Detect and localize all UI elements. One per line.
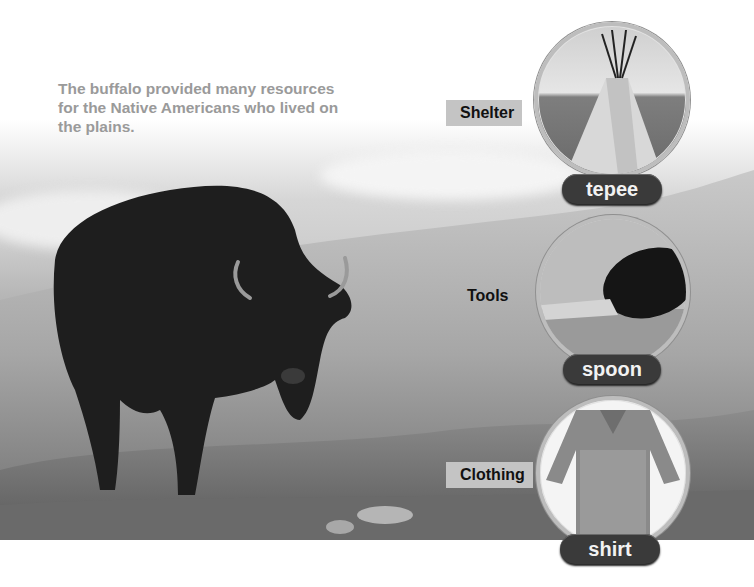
shirt-image [536,396,690,550]
tepee-icon [538,26,686,174]
spoon-label: spoon [563,354,661,384]
tepee-image [534,22,690,178]
spoon-image [536,215,690,369]
caption-text: The buffalo provided many resources for … [58,79,348,136]
shirt-label: shirt [560,534,660,564]
spoon-icon [540,219,686,365]
label-clothing: Clothing [446,462,533,488]
tepee-label: tepee [562,174,662,204]
shirt-icon [540,400,686,546]
label-tools: Tools [453,283,516,309]
label-shelter: Shelter [446,100,522,126]
